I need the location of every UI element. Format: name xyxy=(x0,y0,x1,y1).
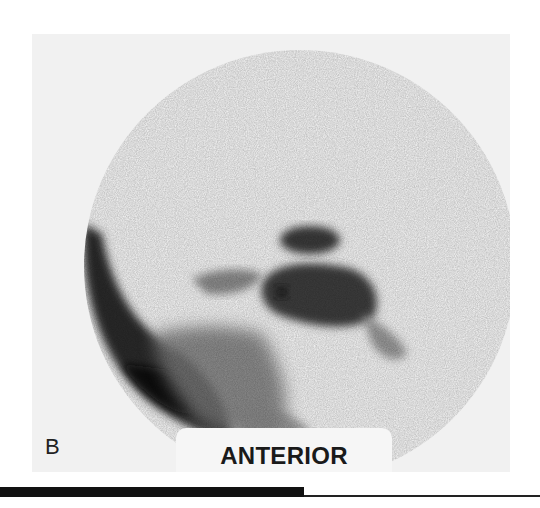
panel-letter: B xyxy=(45,434,60,460)
divider-thick xyxy=(0,487,304,497)
scan-image xyxy=(32,34,510,472)
scan-panel: B ANTERIOR xyxy=(32,34,510,472)
divider-thin xyxy=(304,495,540,497)
view-label: ANTERIOR xyxy=(176,442,392,470)
